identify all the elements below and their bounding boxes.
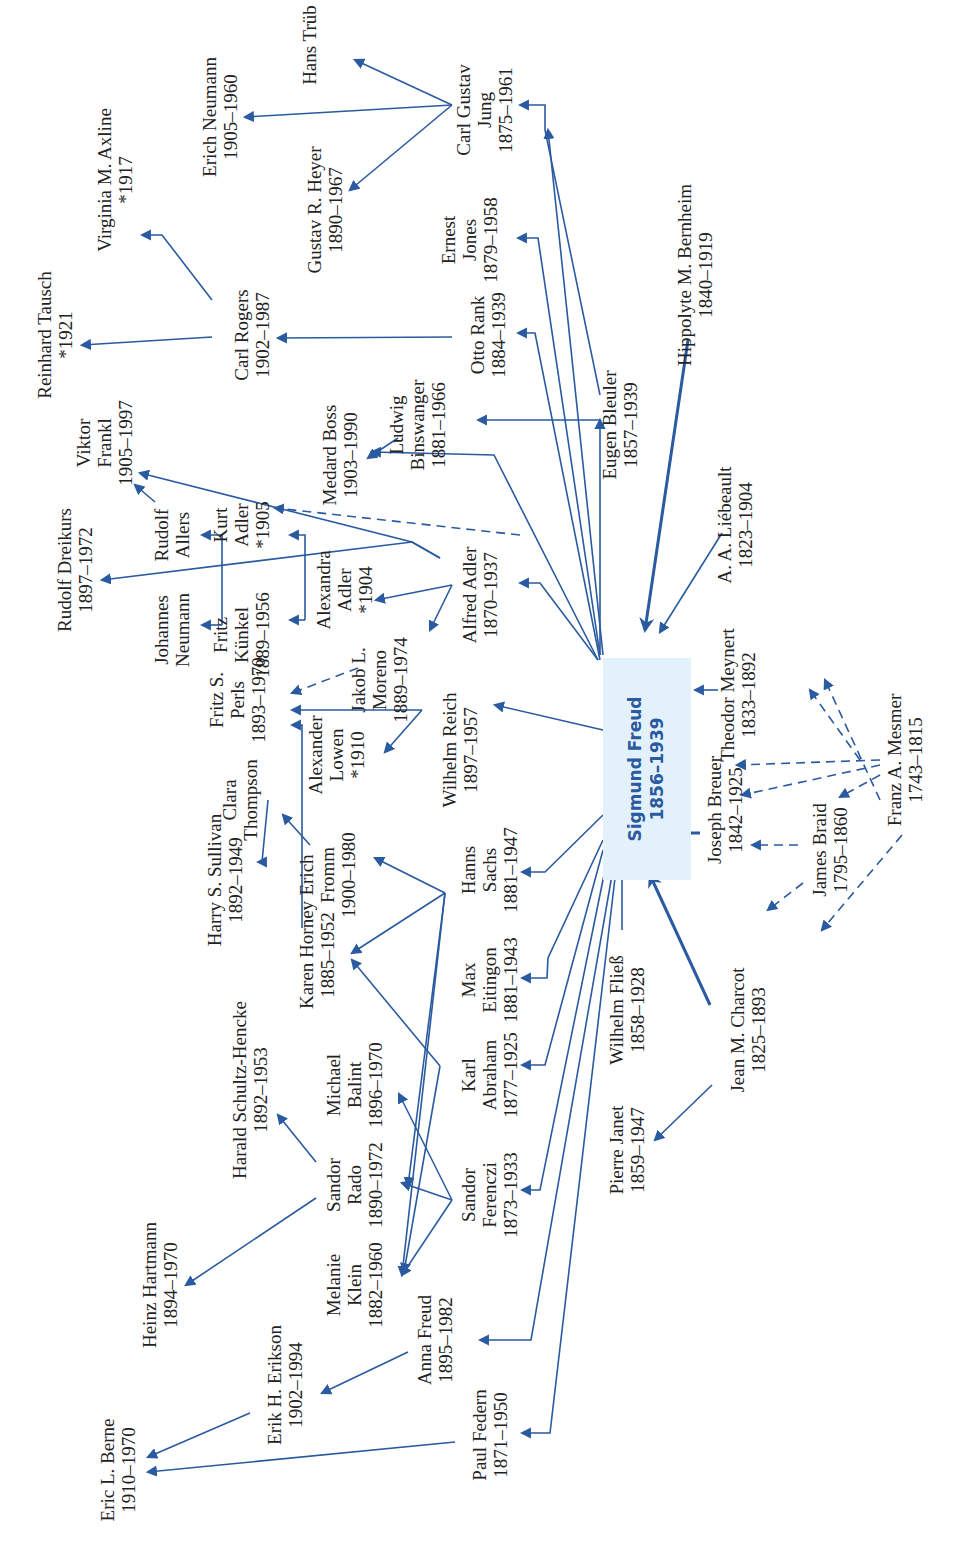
node-frankl[interactable]: ViktorFrankl1905–1997: [73, 400, 136, 486]
node-dates: 1825–1893: [748, 987, 769, 1073]
node-name: Ferenczi: [479, 1162, 500, 1227]
node-mesmer[interactable]: Franz A. Mesmer1743–1815: [884, 693, 926, 826]
node-name: Erich: [296, 854, 317, 896]
node-dates: 1895–1982: [435, 1297, 456, 1383]
edge-freud-to-ferenczi: [522, 870, 605, 1190]
node-dates: 1892–1949: [225, 837, 246, 923]
node-erikson[interactable]: Erik H. Erikson1902–1994: [264, 1325, 306, 1445]
node-jung[interactable]: Carl GustavJung1875–1961: [453, 64, 516, 156]
node-name: Reinhard Tausch: [34, 271, 55, 399]
node-name: Rudolf Dreikurs: [54, 508, 75, 632]
node-binswanger[interactable]: LudwigBinswanger1881–1966: [386, 379, 449, 470]
node-name: Hans Trüb: [299, 5, 320, 85]
node-rogers[interactable]: Carl Rogers1902–1987: [231, 289, 273, 380]
node-ferenczi[interactable]: SandorFerenczi1873–1933: [458, 1152, 521, 1238]
node-name: Fromm: [317, 847, 338, 903]
node-dates: 1892–1953: [250, 1047, 271, 1133]
node-dates: 1879–1958: [480, 197, 501, 283]
node-trub[interactable]: Hans Trüb: [299, 5, 320, 85]
node-dates: 1910–1970: [118, 1427, 139, 1513]
node-federn[interactable]: Paul Federn1871–1950: [469, 1389, 511, 1481]
node-janet[interactable]: Pierre Janet1859–1947: [606, 1105, 648, 1195]
node-aadler[interactable]: AlexandraAdler*1904: [313, 550, 376, 630]
edge-alfadler-to-aadler: [376, 585, 452, 600]
node-name: James Braid: [809, 803, 830, 897]
node-tausch[interactable]: Reinhard Tausch*1921: [34, 271, 76, 399]
node-eitingon[interactable]: MaxEitingon1881–1943: [458, 937, 521, 1023]
node-jones[interactable]: ErnestJones1879–1958: [438, 197, 501, 283]
node-bleuler[interactable]: Eugen Bleuler1857–1939: [599, 370, 641, 480]
edge-charcot-to-freud: [650, 875, 710, 1005]
center-node-sigmund-freud[interactable]: Sigmund Freud 1856–1939: [603, 658, 691, 880]
edge-alfadler-to-moreno: [430, 585, 452, 630]
node-dates: *1917: [115, 156, 136, 204]
edge-rogers-to-axline: [142, 235, 212, 300]
node-lowen[interactable]: AlexanderLowen*1910: [305, 715, 368, 795]
node-boss[interactable]: Medard Boss1903–1990: [319, 405, 361, 506]
node-name: A. A. Liébeault: [714, 466, 735, 584]
node-dates: 1885–1952: [317, 912, 338, 998]
node-perls[interactable]: Fritz S.Perls1893–1970: [206, 657, 269, 743]
edge-sachs-to-horney: [352, 893, 445, 953]
node-schultz[interactable]: Harald Schultz-Hencke1892–1953: [229, 1001, 271, 1179]
edge-mesmer-to-breuer-b: [742, 765, 880, 795]
node-name: Sandor: [323, 1157, 344, 1212]
node-sachs[interactable]: HannsSachs1881–1947: [458, 827, 521, 913]
node-allers[interactable]: RudolfAllers: [151, 508, 193, 561]
node-abraham[interactable]: KarlAbraham1877–1925: [458, 1032, 521, 1118]
node-alfadler[interactable]: Alfred Adler1870–1937: [459, 546, 501, 643]
node-dates: *1921: [55, 311, 76, 359]
node-name: Paul Federn: [469, 1389, 490, 1481]
edge-freud-to-jones: [518, 238, 600, 655]
node-name: Frankl: [94, 418, 115, 468]
node-name: Alexandra: [313, 550, 334, 630]
node-name: Ernest: [438, 215, 459, 264]
node-axline[interactable]: Virginia M. Axline*1917: [94, 108, 136, 252]
node-name: Karen Horney: [296, 900, 317, 1009]
node-liebeault[interactable]: A. A. Liébeault1823–1904: [714, 466, 756, 584]
node-rank[interactable]: Otto Rank1884–1939: [467, 292, 509, 378]
node-bernheim[interactable]: Hippolyte M. Bernheim1840–1919: [674, 184, 716, 366]
node-dreikurs[interactable]: Rudolf Dreikurs1897–1972: [54, 508, 96, 632]
node-name: Michael: [323, 1054, 344, 1116]
node-reich[interactable]: Wilhelm Reich1897–1957: [439, 692, 481, 807]
node-berne[interactable]: Eric L. Berne1910–1970: [97, 1419, 139, 1522]
node-rado[interactable]: SandorRado1890–1972: [323, 1142, 386, 1228]
node-name: Balint: [344, 1061, 365, 1108]
edge-mesmer-to-breuer: [737, 760, 880, 765]
node-dates: 1900–1980: [338, 832, 359, 918]
edge-freud-to-federn: [522, 878, 615, 1433]
node-meynert[interactable]: Theodor Meynert1833–1892: [717, 628, 759, 762]
node-name: Max: [458, 962, 479, 997]
node-afreud[interactable]: Anna Freud1895–1982: [414, 1294, 456, 1385]
node-name: Medard Boss: [319, 405, 340, 506]
edge-bernheim-to-freud: [645, 340, 688, 630]
edge-fromm-to-thompson: [283, 815, 310, 845]
node-fliess[interactable]: Wilhelm Fließ1858–1928: [606, 955, 648, 1065]
node-thompson[interactable]: ClaraThompson: [219, 759, 261, 841]
node-dates: 1894–1970: [160, 1242, 181, 1328]
node-hartmann[interactable]: Heinz Hartmann1894–1970: [139, 1221, 181, 1348]
edge-allers-to-frankl-b: [135, 485, 155, 502]
node-jneumann[interactable]: JohannesNeumann: [151, 593, 193, 667]
node-braid[interactable]: James Braid1795–1860: [809, 803, 851, 897]
node-moreno[interactable]: Jakob L.Moreno1889–1974: [348, 637, 411, 723]
node-dates: *1904: [355, 566, 376, 614]
node-kadler[interactable]: KurtAdler*1905: [210, 501, 273, 549]
edge-freud-to-eitingon: [522, 840, 603, 978]
node-name: Jean M. Charcot: [727, 967, 748, 1093]
node-charcot[interactable]: Jean M. Charcot1825–1893: [727, 967, 769, 1093]
node-horney[interactable]: Karen Horney1885–1952: [296, 900, 338, 1009]
node-eneumann[interactable]: Erich Neumann1905–1960: [199, 57, 241, 177]
node-heyer[interactable]: Gustav R. Heyer1890–1967: [304, 146, 346, 274]
node-balint[interactable]: MichaelBalint1896–1970: [323, 1042, 386, 1128]
node-dates: 1840–1919: [695, 232, 716, 318]
node-klein[interactable]: MelanieKlein1882–1960: [323, 1242, 386, 1328]
node-name: Adler: [334, 568, 355, 612]
node-dates: 1902–1987: [252, 292, 273, 378]
node-breuer[interactable]: Joseph Breuer1842–1925: [704, 755, 746, 864]
node-dates: 1877–1925: [500, 1032, 521, 1118]
node-dates: 1881–1947: [500, 827, 521, 913]
node-dates: *1905: [252, 501, 273, 549]
node-name: Perls: [227, 681, 248, 719]
